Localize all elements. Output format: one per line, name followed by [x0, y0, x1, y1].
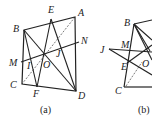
svg-text:E: E — [120, 61, 127, 72]
svg-text:J: J — [100, 44, 105, 55]
svg-text:F: F — [32, 88, 40, 99]
geometry-diagram: A B C D E F M N O I J (a) B J M E O C (b… — [0, 0, 152, 122]
svg-text:O: O — [142, 58, 149, 69]
svg-text:M: M — [120, 39, 130, 50]
svg-text:O: O — [43, 59, 50, 70]
svg-text:C: C — [115, 85, 122, 96]
svg-text:A: A — [77, 7, 85, 18]
svg-text:B: B — [124, 17, 130, 28]
svg-text:N: N — [80, 35, 89, 46]
svg-text:E: E — [47, 4, 54, 15]
svg-text:M: M — [8, 57, 18, 68]
caption-b: (b) — [138, 104, 150, 116]
figure-b — [109, 20, 152, 87]
caption-a: (a) — [40, 104, 51, 116]
svg-text:B: B — [13, 23, 19, 34]
svg-text:I: I — [26, 60, 31, 71]
figure-a — [21, 17, 79, 91]
svg-text:D: D — [77, 90, 86, 101]
figure-a-labels: A B C D E F M N O I J (a) — [8, 4, 89, 116]
svg-text:J: J — [56, 48, 61, 59]
svg-text:C: C — [10, 79, 17, 90]
